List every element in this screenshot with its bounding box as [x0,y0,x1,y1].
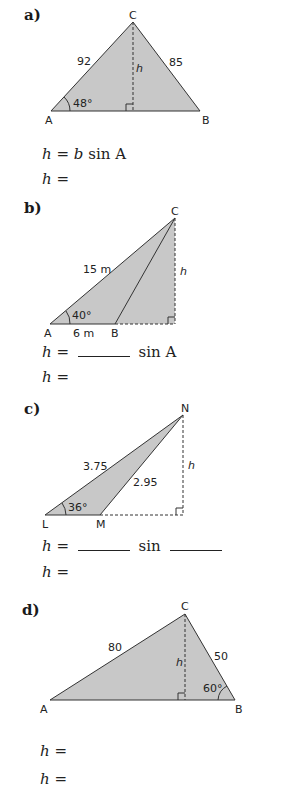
triangle-c: N L M 3.75 2.95 36° h [42,402,195,531]
equation-a-1: h = b sin A [42,145,126,163]
vertex-b-label: B [111,327,119,340]
triangle-figures: C A B 92 85 48° h C A B 15 m 6 m 40° h N… [0,0,289,793]
side-ln-label: 3.75 [83,460,108,473]
equation-c-1: h = sin [42,537,226,555]
angle-b-label: 60° [203,682,223,695]
height-label: h [176,656,183,669]
equation-b-1: h = sin A [42,343,176,361]
answer-blank[interactable] [78,355,130,357]
equation-c-2: h = [42,563,69,581]
vertex-l-label: L [42,518,49,531]
vertex-c-label: C [171,205,179,218]
triangle-a: C A B 92 85 48° h [45,9,210,127]
vertex-b-label: B [202,114,210,127]
angle-a-label: 48° [73,97,93,110]
vertex-m-label: M [96,518,106,531]
vertex-c-label: C [181,600,189,613]
equation-d-2: h = [40,770,67,788]
angle-a-label: 40° [72,309,92,322]
equation-b-2: h = [42,368,69,386]
equation-a-2: h = [42,170,69,188]
vertex-a-label: A [45,114,53,127]
side-ab-label: 6 m [73,327,94,340]
side-mn-label: 2.95 [133,476,158,489]
vertex-a-label: A [44,327,52,340]
triangle-b: C A B 15 m 6 m 40° h [44,205,187,340]
vertex-b-label: B [235,703,243,716]
vertex-c-label: C [129,9,137,22]
side-ac-label: 80 [108,641,122,654]
vertex-a-label: A [40,703,48,716]
answer-blank[interactable] [78,549,130,551]
height-label: h [136,62,143,75]
angle-l-label: 36° [68,501,88,514]
side-bc-label: 85 [169,56,183,69]
height-label: h [180,265,187,278]
side-ac-label: 92 [77,55,91,68]
side-bc-label: 50 [214,650,228,663]
equation-d-1: h = [40,742,67,760]
height-label: h [188,459,195,472]
vertex-n-label: N [181,402,189,415]
answer-blank[interactable] [170,549,222,551]
triangle-d: C A B 80 50 60° h [40,600,243,716]
side-ac-label: 15 m [83,263,111,276]
